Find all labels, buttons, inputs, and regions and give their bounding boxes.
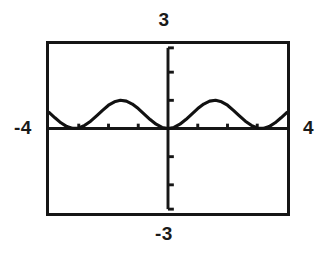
window-ymin-label: -3 (0, 224, 328, 243)
window-ymax-label: 3 (0, 10, 328, 29)
window-xmin-label: -4 (14, 118, 32, 137)
window-xmax-label: 4 (303, 118, 314, 137)
plot-canvas (49, 44, 287, 213)
graph-figure: 3 -4 4 -3 (0, 0, 328, 259)
calculator-viewport (46, 41, 290, 216)
